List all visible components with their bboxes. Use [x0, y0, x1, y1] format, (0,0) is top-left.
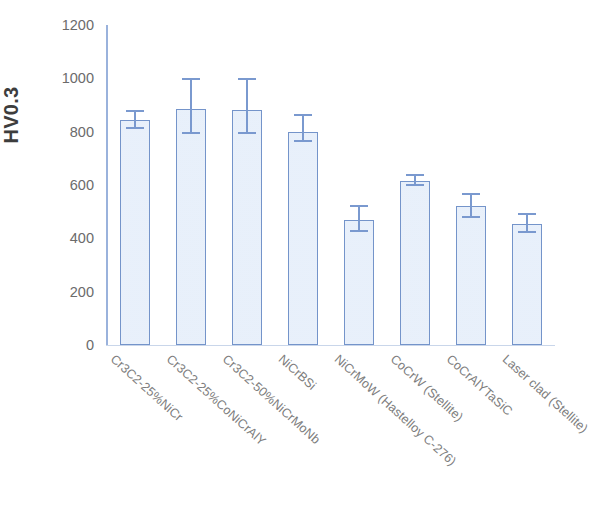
y-axis-tick-label: 1200	[44, 17, 94, 33]
bar[interactable]	[344, 220, 374, 345]
y-axis-tick-label: 200	[44, 284, 94, 300]
bar-slot	[163, 25, 219, 345]
error-bar-cap-upper	[294, 114, 312, 116]
error-bar-stem	[246, 78, 248, 134]
bar[interactable]	[120, 120, 150, 345]
error-bar-cap-lower	[126, 127, 144, 129]
bar-slot	[275, 25, 331, 345]
y-axis-title: HV0.3	[0, 40, 40, 190]
error-bar	[518, 213, 536, 233]
error-bar-cap-upper	[126, 110, 144, 112]
error-bar-cap-lower	[350, 230, 368, 232]
error-bar-cap-upper	[182, 78, 200, 80]
error-bar-cap-upper	[406, 174, 424, 176]
y-axis-tick-label: 0	[44, 337, 94, 353]
error-bar-cap-upper	[238, 78, 256, 80]
error-bar-cap-lower	[238, 132, 256, 134]
bar[interactable]	[232, 110, 262, 345]
error-bar	[238, 78, 256, 134]
error-bar	[406, 174, 424, 186]
x-axis-category-label: Cr3C2-25%CoNiCrAlY	[164, 352, 269, 448]
bar[interactable]	[400, 181, 430, 345]
error-bar	[126, 110, 144, 129]
error-bar	[294, 114, 312, 142]
bar-slot	[219, 25, 275, 345]
error-bar	[462, 193, 480, 218]
error-bar-cap-upper	[518, 213, 536, 215]
error-bar-stem	[358, 205, 360, 232]
x-axis-baseline	[106, 345, 555, 346]
error-bar-cap-upper	[462, 193, 480, 195]
bar-slot	[499, 25, 555, 345]
error-bar	[350, 205, 368, 232]
bar-slot	[443, 25, 499, 345]
bar-slot	[107, 25, 163, 345]
error-bar	[182, 78, 200, 134]
y-axis-tick-label: 400	[44, 230, 94, 246]
error-bar-cap-lower	[518, 231, 536, 233]
y-axis-tick-label: 600	[44, 177, 94, 193]
error-bar-cap-lower	[182, 132, 200, 134]
error-bar-stem	[526, 213, 528, 233]
error-bar-stem	[190, 78, 192, 134]
error-bar-stem	[470, 193, 472, 218]
error-bar-stem	[302, 114, 304, 142]
bar-slot	[331, 25, 387, 345]
error-bar-cap-upper	[350, 205, 368, 207]
bar[interactable]	[288, 132, 318, 345]
error-bar-cap-lower	[294, 140, 312, 142]
error-bar-cap-lower	[406, 184, 424, 186]
y-axis-tick-label: 1000	[44, 70, 94, 86]
bar-slot	[387, 25, 443, 345]
bar[interactable]	[456, 206, 486, 345]
plot-area: 020040060080010001200	[107, 25, 555, 345]
bar[interactable]	[176, 109, 206, 345]
x-axis-category-label: Cr3C2-50%NiCrMoNb	[220, 352, 323, 447]
error-bar-cap-lower	[462, 216, 480, 218]
x-axis-category-label: NiCrBSi	[276, 352, 319, 393]
x-axis-category-label: Laser clad (Stellite)	[500, 352, 591, 436]
y-axis-tick-label: 800	[44, 124, 94, 140]
bar[interactable]	[512, 224, 542, 345]
